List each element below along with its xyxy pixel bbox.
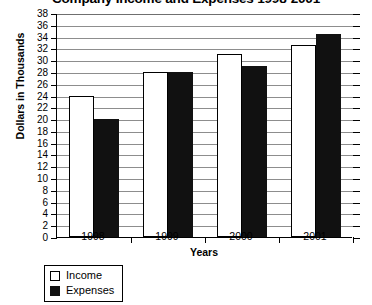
legend-item-expenses: Expenses: [50, 283, 114, 298]
y-axis-tick-label: 6: [42, 198, 48, 208]
y-axis-tick-mark: [51, 120, 57, 121]
y-axis-tick-mark: [51, 191, 57, 192]
x-axis-tick-label: 2001: [303, 230, 326, 242]
y-axis-tick-mark-right: [353, 120, 360, 121]
y-axis-title: Dollars in Thousands: [14, 6, 26, 166]
y-axis-tick-label: 2: [42, 221, 48, 231]
y-axis-tick-mark-right: [353, 38, 360, 39]
y-axis-tick-mark: [51, 203, 57, 204]
y-axis-tick-mark: [51, 144, 57, 145]
y-axis-tick-label: 10: [37, 174, 48, 184]
y-axis-tick-label: 24: [37, 92, 48, 102]
y-axis-tick-mark: [51, 155, 57, 156]
y-axis-tick-mark-right: [353, 49, 360, 50]
y-axis-tick-mark-right: [353, 144, 360, 145]
y-axis-tick-mark-right: [353, 191, 360, 192]
y-axis-tick-label: 28: [37, 68, 48, 78]
y-axis-tick-mark-right: [353, 179, 360, 180]
y-axis-tick-mark: [51, 97, 57, 98]
y-axis-tick-mark: [51, 38, 57, 39]
y-axis-tick-mark: [51, 61, 57, 62]
legend-swatch-income: [50, 271, 60, 281]
y-axis-tick-mark: [51, 108, 57, 109]
y-axis-tick-label: 26: [37, 80, 48, 90]
legend-item-income: Income: [50, 268, 114, 283]
x-axis-tick-label: 2000: [229, 230, 252, 242]
y-axis-tick-mark: [51, 26, 57, 27]
y-axis-tick-mark: [51, 167, 57, 168]
plot-area: 02468101214161820222426283032343638: [56, 14, 352, 238]
y-axis-tick-mark-right: [353, 167, 360, 168]
y-axis-tick-label: 30: [37, 56, 48, 66]
y-axis-tick-label: 38: [37, 9, 48, 19]
chart-title: Company Income and Expenses 1998-2001: [0, 0, 372, 6]
bar-income-2000: [217, 54, 242, 237]
bar-income-2001: [291, 45, 316, 237]
bar-expenses-1998: [94, 119, 119, 237]
y-axis-tick-mark-right: [353, 85, 360, 86]
y-axis-tick-mark: [51, 238, 57, 239]
y-axis-tick-mark-right: [353, 61, 360, 62]
y-axis-tick-label: 16: [37, 139, 48, 149]
y-axis-tick-label: 0: [42, 233, 48, 243]
y-axis-tick-mark-right: [353, 132, 360, 133]
bar-expenses-2000: [242, 66, 267, 237]
chart-legend: IncomeExpenses: [44, 265, 123, 302]
bar-income-1998: [69, 96, 94, 237]
y-axis-tick-mark-right: [353, 214, 360, 215]
bar-group: [291, 13, 341, 237]
y-axis-tick-mark: [51, 226, 57, 227]
bar-income-1999: [143, 72, 168, 237]
y-axis-tick-label: 12: [37, 162, 48, 172]
y-axis-tick-mark: [51, 49, 57, 50]
y-axis-tick-label: 32: [37, 44, 48, 54]
y-axis-tick-mark: [51, 14, 57, 15]
y-axis-tick-label: 8: [42, 186, 48, 196]
y-axis-tick-mark-right: [353, 203, 360, 204]
legend-label: Expenses: [66, 285, 114, 296]
y-axis-tick-mark-right: [353, 73, 360, 74]
y-axis-tick-mark-right: [353, 226, 360, 227]
y-axis-tick-mark: [51, 132, 57, 133]
bar-group: [143, 13, 193, 237]
y-axis-tick-mark-right: [353, 155, 360, 156]
y-axis-tick-mark-right: [353, 14, 360, 15]
y-axis-tick-mark: [51, 85, 57, 86]
legend-swatch-expenses: [50, 286, 60, 296]
x-axis-separator: [279, 237, 280, 243]
y-axis-tick-label: 18: [37, 127, 48, 137]
x-axis-tick-label: 1998: [81, 230, 104, 242]
bar-group: [69, 13, 119, 237]
y-axis-tick-label: 22: [37, 103, 48, 113]
y-axis-tick-label: 34: [37, 33, 48, 43]
y-axis-tick-label: 4: [42, 209, 48, 219]
x-axis-separator: [353, 237, 354, 243]
bar-expenses-2001: [316, 34, 341, 237]
bar-expenses-1999: [168, 72, 193, 237]
y-axis-tick-label: 36: [37, 21, 48, 31]
bar-group: [217, 13, 267, 237]
y-axis-tick-label: 14: [37, 150, 48, 160]
y-axis-tick-mark-right: [353, 238, 360, 239]
y-axis-tick-mark: [51, 73, 57, 74]
x-axis-separator: [131, 237, 132, 243]
y-axis-tick-mark-right: [353, 26, 360, 27]
y-axis-tick-label: 20: [37, 115, 48, 125]
y-axis-tick-mark: [51, 179, 57, 180]
y-axis-tick-mark: [51, 214, 57, 215]
y-axis-tick-mark-right: [353, 97, 360, 98]
x-axis-title: Years: [56, 246, 352, 258]
legend-label: Income: [66, 270, 102, 281]
x-axis-tick-label: 1999: [155, 230, 178, 242]
x-axis-separator: [205, 237, 206, 243]
y-axis-tick-mark-right: [353, 108, 360, 109]
bar-chart-figure: Company Income and Expenses 1998-2001 Do…: [0, 0, 372, 305]
